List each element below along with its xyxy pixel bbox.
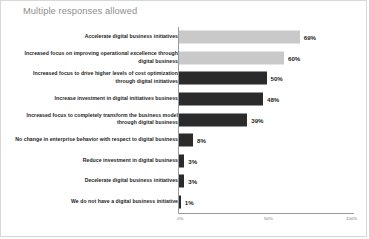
bar-row: Increased focus to completely transform …: [1, 109, 368, 130]
bar-value-label: 3%: [188, 157, 197, 164]
bar-category-label: Increased focus to drive higher levels o…: [13, 71, 178, 86]
bar-track: 1%: [179, 192, 364, 213]
bar: [179, 134, 193, 147]
bar-track: 8%: [179, 130, 364, 151]
bar-row: Accelerate digital business initiatives6…: [1, 27, 368, 48]
bar-plot-area: Accelerate digital business initiatives6…: [1, 27, 368, 213]
bar-value-label: 60%: [288, 54, 300, 61]
bar-category-label: We do not have a digital business initia…: [13, 198, 178, 206]
bar-category-label: Increased focus to completely transform …: [13, 112, 178, 127]
bar-value-label: 48%: [267, 96, 279, 103]
bar: [179, 154, 184, 167]
bar-track: 60%: [179, 48, 364, 69]
bar: [179, 31, 300, 44]
bar-value-label: 1%: [185, 199, 194, 206]
bar-category-label: Reduce investment in digital business: [13, 157, 178, 165]
bar-track: 3%: [179, 151, 364, 172]
bar-row: Increase investment in digital initiativ…: [1, 89, 368, 110]
bar: [179, 93, 263, 106]
bar-category-label: Decelerate digital business initiatives: [13, 178, 178, 186]
bar: [179, 175, 184, 188]
bar-value-label: 39%: [251, 116, 263, 123]
x-tick-label-100: 100%: [346, 216, 357, 221]
bar-track: 39%: [179, 109, 364, 130]
bar-category-label: No change in enterprise behavior with re…: [13, 136, 178, 144]
bar-category-label: Accelerate digital business initiatives: [13, 33, 178, 41]
y-axis-line: [178, 27, 179, 213]
bar: [179, 51, 284, 64]
x-axis-line: [178, 213, 354, 214]
bar: [179, 113, 247, 126]
bar: [179, 196, 181, 209]
bar-track: 50%: [179, 68, 364, 89]
x-tick-label-50: 50%: [264, 216, 273, 221]
chart-container: Multiple responses allowed Accelerate di…: [0, 0, 367, 237]
bar-value-label: 50%: [271, 75, 283, 82]
bar-row: Increased focus to drive higher levels o…: [1, 68, 368, 89]
bar: [179, 72, 267, 85]
bar-value-label: 3%: [188, 178, 197, 185]
x-tick-label-0: 0%: [177, 216, 183, 221]
bar-category-label: Increase investment in digital initiativ…: [13, 95, 178, 103]
bar-value-label: 69%: [304, 34, 316, 41]
bar-value-label: 8%: [197, 137, 206, 144]
bar-row: Decelerate digital business initiatives3…: [1, 171, 368, 192]
bar-row: Increased focus on improving operational…: [1, 48, 368, 69]
bar-row: Reduce investment in digital business3%: [1, 151, 368, 172]
bar-track: 69%: [179, 27, 364, 48]
bar-category-label: Increased focus on improving operational…: [13, 50, 178, 65]
chart-title: Multiple responses allowed: [23, 6, 137, 16]
bar-row: We do not have a digital business initia…: [1, 192, 368, 213]
bar-track: 48%: [179, 89, 364, 110]
bar-row: No change in enterprise behavior with re…: [1, 130, 368, 151]
bar-track: 3%: [179, 171, 364, 192]
